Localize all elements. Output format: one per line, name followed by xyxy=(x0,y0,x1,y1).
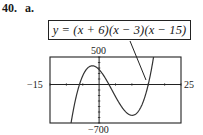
graph xyxy=(0,0,203,135)
xmin-label: −15 xyxy=(27,79,43,90)
ymax-label: 500 xyxy=(91,45,106,56)
callout-leader-line xyxy=(130,41,146,80)
ymin-label: −700 xyxy=(88,124,109,135)
axis-ticks xyxy=(50,57,181,123)
function-curve xyxy=(66,25,158,135)
graph-window-frame xyxy=(50,57,181,123)
xmax-label: 25 xyxy=(184,79,194,90)
